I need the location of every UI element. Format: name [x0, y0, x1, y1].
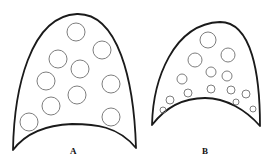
panel-b-label: B: [202, 146, 208, 156]
circle-icon: [250, 106, 256, 112]
circle-icon: [49, 50, 67, 68]
circle-icon: [207, 85, 215, 93]
circle-icon: [184, 89, 192, 97]
circle-icon: [71, 60, 89, 78]
circle-icon: [67, 23, 85, 41]
circle-icon: [188, 53, 202, 67]
panel-a: [13, 14, 136, 150]
circle-icon: [42, 97, 60, 115]
circle-icon: [233, 99, 239, 105]
circle-icon: [68, 86, 86, 104]
circle-icon: [166, 96, 174, 104]
panel-a-outline: [13, 14, 136, 150]
circle-icon: [177, 74, 187, 84]
circle-icon: [200, 32, 216, 48]
diagram-canvas: [0, 0, 275, 164]
circle-icon: [102, 108, 120, 126]
panel-a-circles: [20, 23, 120, 131]
circle-icon: [222, 71, 232, 81]
circle-icon: [242, 90, 250, 98]
circle-icon: [206, 67, 216, 77]
panel-a-label: A: [70, 146, 77, 156]
circle-icon: [102, 75, 120, 93]
panel-b: [152, 22, 260, 126]
circle-icon: [37, 72, 55, 90]
circle-icon: [93, 41, 111, 59]
circle-icon: [221, 48, 235, 62]
circle-icon: [20, 113, 38, 131]
circle-icon: [227, 86, 235, 94]
panel-b-circles: [160, 32, 256, 113]
